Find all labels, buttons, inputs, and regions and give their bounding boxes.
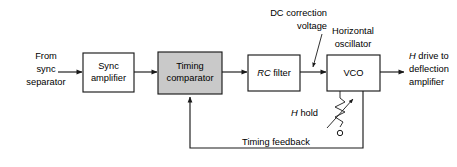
leader-dc-correction-voltage [313,34,322,67]
h-hold-label: H hold [291,108,318,118]
block-rc-filter-label-italic: RC [257,68,271,78]
input-label-line1: From [35,51,57,61]
dc-correction-label-line2: voltage [297,21,327,31]
block-rc-filter-label-rest: filter [271,68,291,78]
input-label-line2: sync [36,64,55,74]
block-timing-comparator-label-line2: comparator [166,73,213,83]
diagram-canvas: From sync separator Sync amplifier Timin… [0,0,457,167]
dc-correction-label-line1: DC correction [270,8,327,18]
output-label-line3: amplifier [409,77,444,87]
h-hold-label-rest: hold [298,108,318,118]
horizontal-oscillator-label-line1: Horizontal [332,26,374,36]
output-label-line1-rest: drive to [416,51,449,61]
block-diagram: From sync separator Sync amplifier Timin… [0,0,457,167]
variable-resistor-zigzag [335,98,345,127]
input-label-line3: separator [26,77,65,87]
timing-feedback-label: Timing feedback [242,137,310,147]
output-label-line1: H drive to [409,51,449,61]
block-sync-amplifier-label-line2: amplifier [91,73,126,83]
block-timing-comparator-label-line1: Timing [176,61,204,71]
variable-resistor-adjust-arrow [327,99,353,128]
output-label-line2: deflection [409,64,449,74]
h-hold-terminal-circle [337,130,342,135]
horizontal-oscillator-label-line2: oscillator [335,39,372,49]
block-sync-amplifier-label-line1: Sync [98,61,119,71]
block-rc-filter-label: RC filter [257,68,291,78]
block-vco-label: VCO [343,68,363,78]
